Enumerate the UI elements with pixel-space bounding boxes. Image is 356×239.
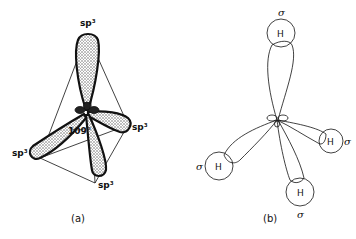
sp3-lobe-top xyxy=(76,34,99,110)
h-label-bottom: H xyxy=(297,188,304,198)
sp3-label-left: sp³ xyxy=(12,148,28,158)
diagram-canvas: 109° sp³ sp³ sp³ sp³ (a) H H H H σ σ xyxy=(0,0,356,239)
figure-b-sigma-bonds xyxy=(205,19,343,206)
h-label-top: H xyxy=(277,29,284,39)
sigma-lobe-left xyxy=(224,120,277,163)
sp3-label-right: sp³ xyxy=(132,122,148,132)
sigma-label-bottom: σ xyxy=(297,209,305,220)
bond-angle-label: 109° xyxy=(68,126,91,136)
figure-a-caption: (a) xyxy=(71,213,85,224)
sigma-label-top: σ xyxy=(278,7,286,18)
sigma-lobe-top xyxy=(268,41,294,120)
figure-a-sp3-orbitals: 109° sp³ sp³ sp³ sp³ (a) xyxy=(12,18,148,224)
h-label-left: H xyxy=(215,162,222,172)
sp3-label-top: sp³ xyxy=(80,18,96,28)
h-label-right: H xyxy=(327,137,334,147)
sp3-label-bottom: sp³ xyxy=(98,180,114,190)
figure-b-caption: (b) xyxy=(263,213,277,224)
sigma-label-left: σ xyxy=(196,161,204,172)
sp3-lobe-left xyxy=(30,114,86,159)
sigma-lobe-bottom xyxy=(277,120,304,183)
sigma-label-right: σ xyxy=(344,136,352,147)
